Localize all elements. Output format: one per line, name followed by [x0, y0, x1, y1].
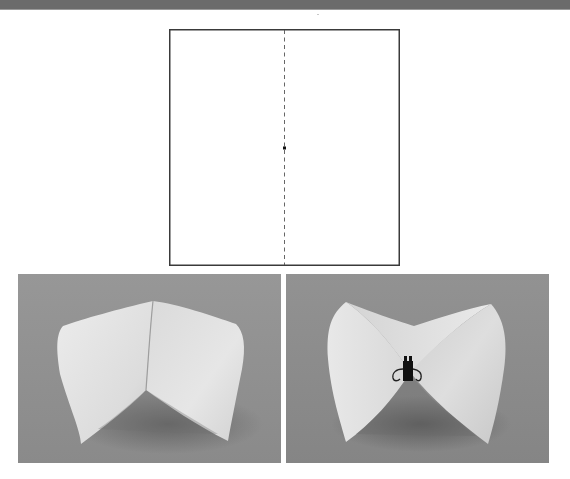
- scan-mark: [317, 14, 319, 15]
- photo-folded-paper: [18, 274, 281, 463]
- fold-diagram: [169, 29, 400, 266]
- folded-paper-illustration: [18, 274, 281, 463]
- photo-saddle-with-clip: [286, 274, 549, 463]
- top-bar: [0, 0, 570, 10]
- paper-square-diagram: [169, 29, 400, 266]
- saddle-paper-illustration: [286, 274, 549, 463]
- center-dot: [283, 147, 286, 150]
